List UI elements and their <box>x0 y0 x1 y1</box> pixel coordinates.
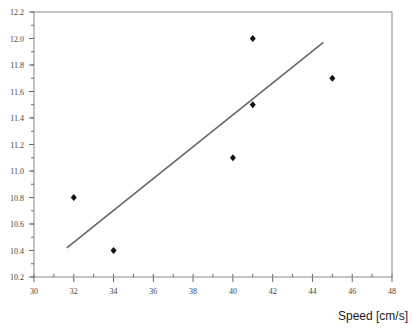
y-tick-label: 11.0 <box>10 167 24 176</box>
x-tick-label: 38 <box>189 287 197 296</box>
y-tick-label: 10.6 <box>10 220 24 229</box>
y-tick-label: 11.6 <box>10 88 24 97</box>
y-tick-label: 10.8 <box>10 194 24 203</box>
y-tick-label: 11.2 <box>10 141 24 150</box>
x-tick-label: 48 <box>388 287 396 296</box>
y-tick-label: 11.8 <box>10 61 24 70</box>
plot-frame <box>34 12 392 277</box>
x-tick-label: 36 <box>149 287 157 296</box>
data-point-marker <box>230 154 236 161</box>
axis-ticks <box>29 12 392 282</box>
y-tick-label: 10.2 <box>10 273 24 282</box>
x-tick-label: 44 <box>308 287 316 296</box>
x-tick-label: 46 <box>348 287 356 296</box>
x-axis-label: Speed [cm/s] <box>338 309 408 323</box>
x-tick-label: 42 <box>269 287 277 296</box>
data-point-marker <box>250 101 256 108</box>
y-tick-label: 10.4 <box>10 247 24 256</box>
x-tick-label: 40 <box>229 287 237 296</box>
x-tick-label: 30 <box>30 287 38 296</box>
data-point-marker <box>250 35 256 42</box>
y-tick-label: 11.4 <box>10 114 24 123</box>
y-tick-label: 12.2 <box>10 8 24 17</box>
tick-labels: 3032343638404244464810.210.410.610.811.0… <box>10 8 396 296</box>
data-point-marker <box>71 194 77 201</box>
data-points <box>71 35 336 254</box>
data-point-marker <box>329 75 335 82</box>
regression-line <box>67 42 324 247</box>
data-point-marker <box>111 247 117 254</box>
y-tick-label: 12.0 <box>10 35 24 44</box>
x-tick-label: 34 <box>110 287 118 296</box>
x-tick-label: 32 <box>70 287 78 296</box>
scatter-chart: 3032343638404244464810.210.410.610.811.0… <box>0 0 412 329</box>
